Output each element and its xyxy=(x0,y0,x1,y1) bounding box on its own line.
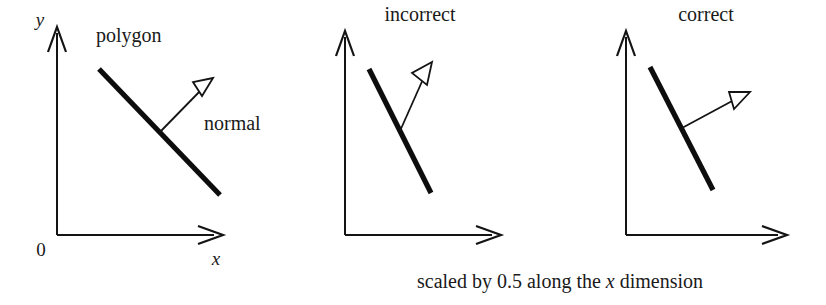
panel-correct: correct xyxy=(617,3,787,244)
axes-incorrect xyxy=(336,31,501,244)
x-axis-label: x xyxy=(211,248,221,269)
normal-shaft-incorrect xyxy=(400,77,424,131)
axes-correct xyxy=(617,31,787,244)
caption-suffix: dimension xyxy=(615,270,703,292)
normal-annotation-label: normal xyxy=(204,112,261,134)
normal-arrowhead-incorrect xyxy=(412,62,432,85)
caption-prefix: scaled by 0.5 along the xyxy=(417,270,606,293)
normal-vector-correct xyxy=(682,92,750,128)
figure-root: y x 0 polygon normal incorrect xyxy=(0,0,826,305)
normal-shaft-correct xyxy=(682,100,734,128)
normal-shaft-original xyxy=(160,88,203,132)
axes-original xyxy=(48,27,223,244)
panel-original: y x 0 polygon normal xyxy=(34,9,261,269)
caption-line: scaled by 0.5 along the x dimension xyxy=(417,270,703,293)
polygon-edge-correct xyxy=(650,67,713,190)
y-axis-label: y xyxy=(34,9,45,30)
panel-title-correct: correct xyxy=(678,3,734,25)
caption: scaled by 0.5 along the x dimension xyxy=(417,270,703,293)
normal-vector-incorrect xyxy=(400,62,432,131)
caption-variable: x xyxy=(605,270,615,292)
panel-incorrect: incorrect xyxy=(336,3,501,244)
normal-arrowhead-correct xyxy=(729,92,750,109)
panel-title-incorrect: incorrect xyxy=(384,3,456,25)
origin-label: 0 xyxy=(36,239,46,260)
polygon-annotation-label: polygon xyxy=(96,24,162,47)
normal-arrowhead-original xyxy=(193,78,213,96)
normal-scaling-diagram: y x 0 polygon normal incorrect xyxy=(0,0,826,305)
